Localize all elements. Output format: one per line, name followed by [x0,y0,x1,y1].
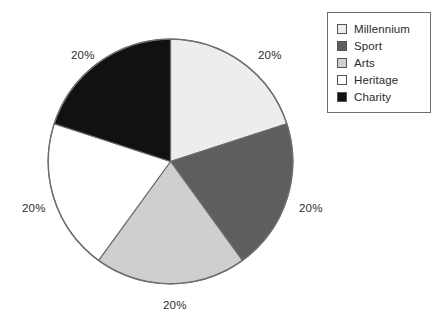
legend-label-charity: Charity [354,91,391,103]
legend-swatch-millennium [337,24,347,34]
slice-data-label-millennium: 20% [258,49,282,61]
slice-data-label-heritage: 20% [22,202,46,214]
pie-chart-svg [47,38,294,285]
chart-legend: Millennium Sport Arts Heritage Charity [327,12,431,113]
slice-data-label-sport: 20% [299,202,323,214]
legend-item-millennium: Millennium [337,20,430,37]
legend-item-arts: Arts [337,54,430,71]
pie-chart-plot-area [47,38,294,285]
legend-swatch-sport [337,41,347,51]
slice-data-label-arts: 20% [163,299,187,311]
pie-chart-figure: 20% 20% 20% 20% 20% Millennium Sport Art… [0,0,445,328]
pie-slice-group [48,39,293,284]
legend-label-millennium: Millennium [354,23,410,35]
legend-label-arts: Arts [354,57,375,69]
legend-swatch-charity [337,92,347,102]
legend-swatch-heritage [337,75,347,85]
slice-data-label-charity: 20% [71,49,95,61]
legend-label-sport: Sport [354,40,382,52]
legend-item-sport: Sport [337,37,430,54]
legend-item-charity: Charity [337,88,430,105]
legend-swatch-arts [337,58,347,68]
legend-item-heritage: Heritage [337,71,430,88]
legend-label-heritage: Heritage [354,74,398,86]
